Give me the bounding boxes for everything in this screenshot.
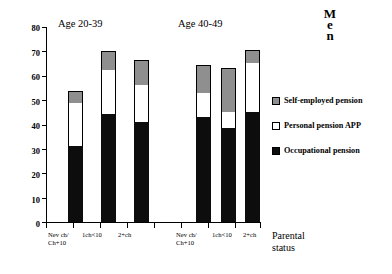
y-tick-70 xyxy=(42,51,47,52)
legend-item-self-employed: Self-employed pension xyxy=(272,96,362,105)
bar-segment-personal-app xyxy=(196,93,211,116)
bar-segment-personal-app xyxy=(134,85,149,122)
ytick-label-50: 50 xyxy=(14,98,40,107)
x-tick-0 xyxy=(46,223,47,228)
ytick-label-80: 80 xyxy=(14,24,40,33)
ytick-label-0: 0 xyxy=(14,220,40,229)
category-label-1: 1ch<10 xyxy=(82,231,102,239)
bar-group-age-20-39-2plus-ch xyxy=(134,60,149,222)
y-tick-20 xyxy=(42,173,47,174)
x-tick-8 xyxy=(260,223,261,228)
bar-segment-self-employed xyxy=(101,51,116,71)
ytick-label-70: 70 xyxy=(14,49,40,58)
y-tick-50 xyxy=(42,100,47,101)
legend-label-self-employed: Self-employed pension xyxy=(284,96,362,105)
ytick-label-40: 40 xyxy=(14,122,40,131)
x-axis-title: Parental status xyxy=(272,230,305,254)
legend-label-occupational: Occupational pension xyxy=(284,146,360,155)
category-label-0: Nev ch/ Ch+10 xyxy=(48,231,69,247)
legend-swatch-self-employed-icon xyxy=(272,97,280,105)
bar-group-age-40-49-1ch-lt10 xyxy=(221,68,236,222)
category-label-4: 1ch<10 xyxy=(212,231,232,239)
x-tick-3 xyxy=(127,223,128,228)
bar-group-age-20-39-nev-ch xyxy=(68,91,83,222)
legend-label-personal-app: Personal pension APP xyxy=(284,121,361,130)
bar-segment-occupational xyxy=(68,146,83,222)
bar-segment-occupational xyxy=(134,122,149,223)
legend-swatch-occupational-icon xyxy=(272,147,280,155)
legend-swatch-personal-app-icon xyxy=(272,122,280,130)
x-tick-6 xyxy=(208,223,209,228)
bar-segment-self-employed xyxy=(221,68,236,112)
y-tick-80 xyxy=(42,27,47,28)
bar-segment-self-employed xyxy=(134,60,149,85)
bar-group-age-40-49-2plus-ch xyxy=(245,50,260,222)
category-label-3: Nev ch/ Ch+10 xyxy=(176,231,197,247)
y-tick-30 xyxy=(42,149,47,150)
bar-segment-occupational xyxy=(101,114,116,222)
stacked-bar-chart: M e n Age 20-39 Age 40-49 0 10 20 30 40 … xyxy=(0,0,392,274)
bar-segment-occupational xyxy=(196,117,211,222)
bar-segment-personal-app xyxy=(68,103,83,146)
y-tick-10 xyxy=(42,198,47,199)
x-tick-2 xyxy=(100,223,101,228)
chart-title: M e n xyxy=(318,8,342,42)
x-tick-5 xyxy=(181,223,182,228)
bar-segment-self-employed xyxy=(68,91,83,103)
bar-segment-occupational xyxy=(245,112,260,222)
legend-item-personal-app: Personal pension APP xyxy=(272,121,362,130)
ytick-label-10: 10 xyxy=(14,196,40,205)
x-tick-7 xyxy=(235,223,236,228)
plot-area xyxy=(46,27,261,223)
x-tick-4 xyxy=(154,223,155,228)
legend-item-occupational: Occupational pension xyxy=(272,146,362,155)
bar-segment-personal-app xyxy=(221,112,236,128)
bar-segment-self-employed xyxy=(196,65,211,93)
y-tick-40 xyxy=(42,125,47,126)
bar-group-age-40-49-nev-ch xyxy=(196,65,211,222)
y-tick-60 xyxy=(42,76,47,77)
ytick-label-20: 20 xyxy=(14,171,40,180)
bar-segment-personal-app xyxy=(245,63,260,112)
ytick-label-30: 30 xyxy=(14,147,40,156)
bar-segment-personal-app xyxy=(101,70,116,114)
x-tick-1 xyxy=(73,223,74,228)
category-label-2: 2+ch xyxy=(118,231,131,239)
ytick-label-60: 60 xyxy=(14,73,40,82)
bar-segment-self-employed xyxy=(245,50,260,62)
bar-segment-occupational xyxy=(221,128,236,222)
bar-group-age-20-39-1ch-lt10 xyxy=(101,51,116,222)
category-label-5: 2+ch xyxy=(243,231,256,239)
chart-title-letter-n: n xyxy=(318,30,342,41)
legend: Self-employed pension Personal pension A… xyxy=(272,96,362,171)
